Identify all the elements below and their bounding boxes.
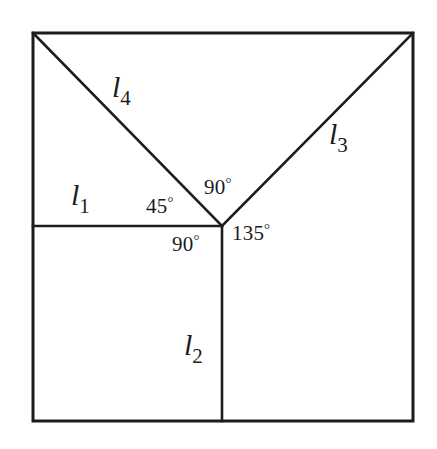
segment-l3	[222, 33, 413, 226]
geometry-diagram: l4 l3 l1 l2 45° 90° 90° 135°	[0, 0, 437, 449]
segment-l4	[33, 33, 222, 226]
diagram-canvas	[0, 0, 437, 449]
